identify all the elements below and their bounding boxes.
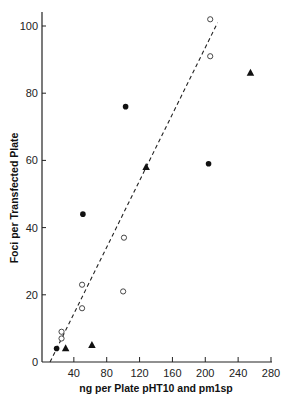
y-tick-label: 20 bbox=[26, 289, 38, 301]
x-tick-label: 200 bbox=[196, 367, 214, 379]
scatter-chart: 020406080100 4080120160200240280 ng per … bbox=[0, 0, 291, 405]
filled-circle-point bbox=[123, 104, 129, 110]
y-axis-title: Foci per Transfected Plate bbox=[8, 132, 20, 263]
open-circle-point bbox=[79, 282, 84, 287]
filled-circle-point bbox=[80, 211, 86, 217]
filled-circle-point bbox=[206, 161, 212, 167]
filled-triangle-point bbox=[62, 344, 70, 351]
y-tick-label: 0 bbox=[32, 356, 38, 368]
open-circle-point bbox=[208, 54, 213, 59]
x-axis-title: ng per Plate pHT10 and pm1sp bbox=[79, 382, 232, 394]
filled-triangle-point bbox=[247, 69, 255, 76]
axes: 020406080100 4080120160200240280 bbox=[20, 12, 281, 379]
fit-line-path bbox=[50, 23, 218, 362]
open-circle-point bbox=[59, 329, 64, 334]
open-circle-point bbox=[208, 17, 213, 22]
open-circle-point bbox=[79, 306, 84, 311]
data-points bbox=[54, 17, 254, 352]
x-tick-label: 280 bbox=[262, 367, 280, 379]
x-tick-label: 160 bbox=[163, 367, 181, 379]
filled-circle-point bbox=[54, 346, 60, 352]
y-tick-label: 100 bbox=[20, 20, 38, 32]
x-tick-label: 80 bbox=[101, 367, 113, 379]
open-circle-point bbox=[121, 289, 126, 294]
x-ticks: 4080120160200240280 bbox=[68, 357, 280, 379]
filled-triangle-point bbox=[88, 341, 96, 348]
y-tick-label: 80 bbox=[26, 87, 38, 99]
dashed-regression-line bbox=[50, 23, 218, 362]
y-tick-label: 40 bbox=[26, 222, 38, 234]
y-tick-label: 60 bbox=[26, 154, 38, 166]
x-tick-label: 120 bbox=[130, 367, 148, 379]
x-tick-label: 40 bbox=[68, 367, 80, 379]
open-circle-point bbox=[59, 336, 64, 341]
x-tick-label: 240 bbox=[229, 367, 247, 379]
filled-triangle-point bbox=[142, 163, 150, 170]
open-circle-point bbox=[121, 235, 126, 240]
